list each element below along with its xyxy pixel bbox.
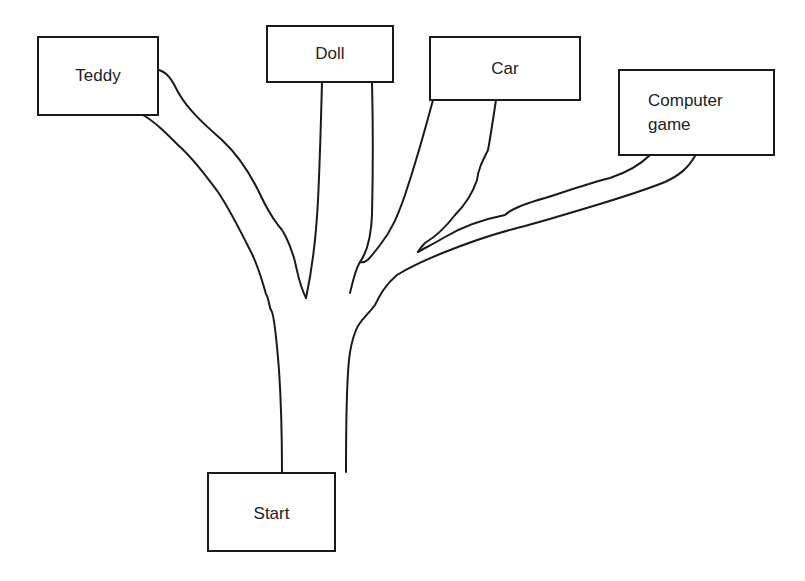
node-teddy-label: Teddy xyxy=(75,64,120,88)
branch-teddy-right xyxy=(159,70,306,298)
branch-doll-left xyxy=(306,82,322,298)
branch-car-right xyxy=(418,100,496,252)
node-computer-game-line-2: game xyxy=(648,113,723,137)
branch-car-left xyxy=(360,100,433,262)
node-start-label: Start xyxy=(254,502,290,526)
node-doll-label: Doll xyxy=(315,42,344,66)
trunk-left-edge xyxy=(143,115,282,472)
node-doll: Doll xyxy=(266,25,394,83)
node-car: Car xyxy=(429,36,581,101)
node-car-label: Car xyxy=(491,57,518,81)
node-computer-game: Computer game xyxy=(618,69,775,156)
node-computer-game-label: Computer game xyxy=(648,89,723,137)
node-teddy: Teddy xyxy=(37,36,159,116)
node-start: Start xyxy=(207,472,336,552)
branch-cg-left xyxy=(418,155,650,252)
node-computer-game-line-1: Computer xyxy=(648,89,723,113)
branch-cg-right xyxy=(346,156,695,472)
